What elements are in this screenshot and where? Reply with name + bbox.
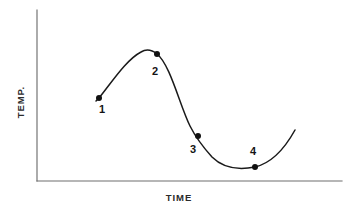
data-point-marker-3: [195, 133, 201, 139]
data-point-label-4: 4: [250, 146, 256, 157]
chart-figure: TEMP. TIME 1 2 3 4: [0, 0, 358, 216]
plot-canvas: [0, 0, 358, 216]
data-point-label-2: 2: [152, 66, 158, 77]
data-point-label-1: 1: [99, 104, 105, 115]
data-point-marker-1: [96, 95, 102, 101]
y-axis-label: TEMP.: [0, 95, 40, 109]
data-point-marker-4: [252, 164, 258, 170]
data-point-marker-2: [154, 51, 160, 57]
data-point-label-3: 3: [190, 144, 196, 155]
x-axis-label: TIME: [0, 192, 358, 203]
